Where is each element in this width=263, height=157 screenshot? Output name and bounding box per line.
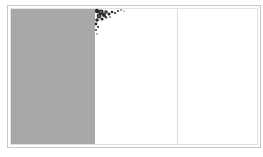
- floral-corner-icon: [94, 8, 128, 38]
- panel-right: [177, 9, 257, 144]
- fold-line: [177, 9, 178, 144]
- trifold-sheet: [7, 5, 261, 148]
- panel-left: [11, 9, 95, 144]
